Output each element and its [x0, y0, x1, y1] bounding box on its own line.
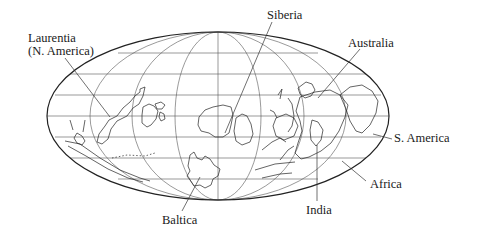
continents [65, 82, 378, 188]
baltica-shape [187, 152, 220, 188]
label-laurentia-line2: (N. America) [28, 45, 94, 58]
laurentia-shape [97, 87, 145, 144]
africa-leader [342, 161, 366, 181]
label-australia: Australia [348, 37, 394, 50]
australia-shape [298, 82, 315, 98]
label-india: India [306, 204, 332, 217]
india-shape [310, 120, 323, 146]
siberia-leader [225, 22, 272, 133]
label-siberia: Siberia [267, 9, 302, 22]
africa-shape [295, 90, 348, 159]
laurentia-leader [65, 58, 110, 117]
label-africa: Africa [370, 178, 402, 191]
siberia-shape [198, 105, 233, 137]
label-baltica: Baltica [162, 214, 197, 227]
label-laurentia: Laurentia (N. America) [28, 32, 94, 58]
s-america-shape [340, 85, 378, 133]
label-s-america: S. America [394, 132, 450, 145]
